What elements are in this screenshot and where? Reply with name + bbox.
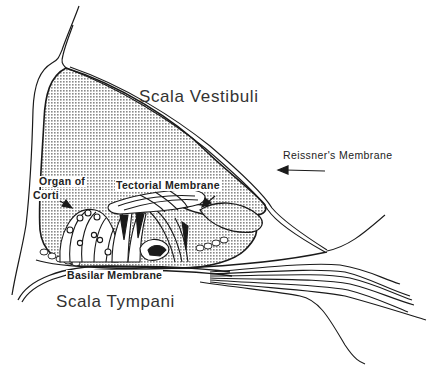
label-reissners-membrane: Reissner's Membrane bbox=[283, 150, 392, 161]
label-organ-of-corti-line2: Corti bbox=[32, 190, 60, 201]
nerve-fibers bbox=[200, 264, 426, 364]
label-organ-of-corti-line1: Organ of bbox=[38, 176, 86, 187]
label-scala-tympani: Scala Tympani bbox=[56, 293, 175, 310]
label-basilar-membrane: Basilar Membrane bbox=[66, 270, 163, 281]
cochlea-diagram: Scala Vestibuli Reissner's Membrane Orga… bbox=[0, 0, 434, 369]
label-scala-vestibuli: Scala Vestibuli bbox=[139, 88, 259, 105]
label-tectorial-membrane: Tectorial Membrane bbox=[115, 180, 221, 191]
